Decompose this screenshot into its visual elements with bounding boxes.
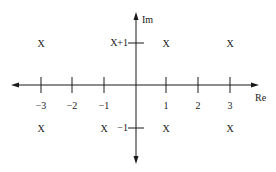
x-tick-label: 3	[228, 101, 233, 111]
imaginary-axis-up-arrow-icon	[134, 12, 139, 20]
real-axis-label: Re	[255, 93, 266, 103]
pole-mark: X	[100, 124, 107, 134]
x-tick-label: −3	[36, 101, 47, 111]
imaginary-axis-down-arrow-icon	[134, 156, 139, 164]
pole-mark: X	[226, 124, 233, 134]
pole-mark: X	[162, 124, 169, 134]
x-tick-label: 1	[164, 101, 169, 111]
pole-mark: X	[162, 39, 169, 49]
y-tick-label-plus-one: X+1	[110, 38, 128, 48]
x-tick-label: 2	[196, 101, 201, 111]
complex-plane-diagram	[0, 0, 276, 172]
pole-mark: X	[226, 39, 233, 49]
real-axis-left-arrow-icon	[11, 83, 19, 88]
imaginary-axis-label: Im	[142, 15, 153, 25]
x-tick-label: −1	[99, 101, 110, 111]
x-tick-label: −2	[67, 101, 78, 111]
pole-mark: X	[37, 39, 44, 49]
y-tick-label-minus-one: −1	[117, 123, 128, 133]
pole-mark: X	[37, 124, 44, 134]
real-axis-right-arrow-icon	[251, 83, 259, 88]
